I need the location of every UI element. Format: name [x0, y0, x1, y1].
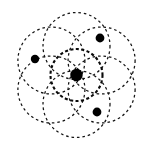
atom-diagram	[0, 0, 154, 149]
nucleus-dot	[70, 69, 82, 81]
outer-orbit-circle-5	[68, 56, 135, 123]
atom-diagram-canvas	[0, 0, 154, 149]
electron-left-dot	[31, 55, 39, 63]
electron-bottom-right-dot	[93, 108, 102, 117]
electron-top-right-dot	[96, 34, 105, 43]
